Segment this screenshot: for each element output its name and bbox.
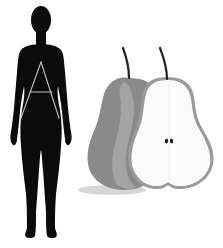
pear-body-shape-illustration [0, 0, 223, 248]
halved-pear-icon [128, 48, 213, 189]
female-silhouette-icon [10, 6, 71, 238]
